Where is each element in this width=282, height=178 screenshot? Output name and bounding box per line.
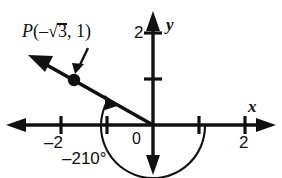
x-axis-label: x	[248, 98, 257, 115]
x-tick-label-2: 2	[239, 134, 248, 151]
point-p-y-value: 1	[76, 21, 85, 41]
y-axis-label: y	[166, 16, 174, 33]
point-label-leader-arrowhead	[72, 63, 84, 74]
y-axis-top-arrowhead	[146, 11, 160, 31]
y-axis-bottom-arrowhead	[146, 155, 160, 175]
radical-vinculum	[57, 23, 67, 25]
x-axis-left-arrowhead	[6, 118, 26, 132]
terminal-ray	[45, 64, 153, 125]
coordinate-plane-figure: P(–√3, 1) y x 2 –2 2 0 –210°	[0, 0, 282, 178]
point-p-name: P	[22, 21, 33, 41]
origin-label: 0	[132, 131, 141, 147]
point-p-separator: ,	[67, 21, 76, 41]
x-axis-right-arrowhead	[256, 118, 276, 132]
terminal-ray-arrowhead	[28, 55, 53, 72]
square-root-icon: √3	[48, 22, 67, 40]
point-p-negative-sign: –	[39, 21, 48, 41]
angle-measure-label: –210°	[62, 150, 107, 167]
point-p-marker	[68, 74, 80, 86]
point-p-label: P(–√3, 1)	[22, 22, 91, 40]
point-p-close-paren: )	[85, 21, 91, 41]
x-tick-label-minus-2: –2	[44, 134, 63, 151]
y-tick-label-2: 2	[134, 24, 143, 41]
